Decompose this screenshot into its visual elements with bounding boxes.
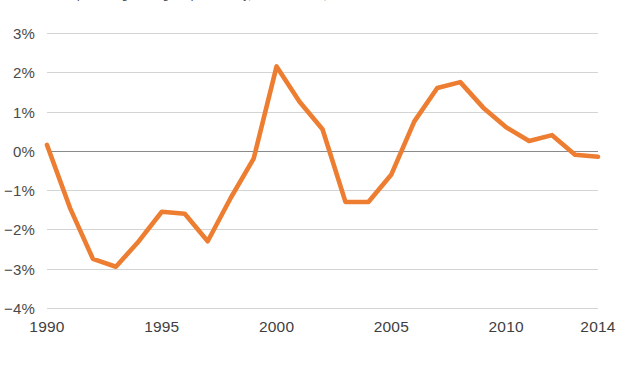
series-polyline (47, 66, 598, 266)
series-line-annual-change (0, 0, 631, 368)
line-chart: Annual percentage change in productivity… (0, 0, 631, 368)
